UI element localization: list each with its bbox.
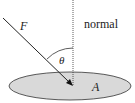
force-diagram: F normal θ A [0,0,135,103]
surface-area-ellipse [9,72,131,100]
angle-label: θ [59,54,65,66]
normal-label: normal [84,17,119,31]
area-label: A [91,80,100,94]
force-vector-line [3,18,69,82]
force-label: F [19,19,28,33]
